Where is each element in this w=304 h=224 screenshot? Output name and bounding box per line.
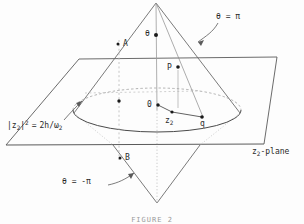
figure-container: θ = π θ = -π θ A B P 0 q z2 z2-plane |z2… xyxy=(0,0,304,224)
cone-axis xyxy=(156,3,157,203)
point-a-dot xyxy=(117,43,120,46)
label-theta-vertex: θ xyxy=(145,30,150,38)
guide-line-horizontal xyxy=(85,91,200,93)
plane-right-edge xyxy=(264,57,277,144)
label-point-z2-subscript: 2 xyxy=(170,119,174,126)
plane-bottom-edge xyxy=(6,144,264,145)
label-point-o: 0 xyxy=(147,101,152,109)
lower-cone-right-edge xyxy=(157,145,200,203)
plane-left-edge xyxy=(6,59,79,145)
label-theta-equals-minus-pi: θ = -π xyxy=(62,178,91,186)
plane-top-edge xyxy=(79,57,277,59)
point-z2-dot xyxy=(170,110,173,113)
radius-rhs-subscript: 2 xyxy=(59,124,63,131)
label-point-b: B xyxy=(125,154,130,162)
point-o-dot xyxy=(156,103,159,106)
arrow-theta-pi-shaft xyxy=(198,23,218,42)
point-p-dot xyxy=(176,65,180,69)
lower-cone-left-hidden-edge xyxy=(74,113,113,145)
label-point-q: q xyxy=(200,120,205,128)
label-point-a: A xyxy=(123,40,128,48)
label-point-z2: z2 xyxy=(165,117,173,126)
upper-cone-generator-to-q xyxy=(156,3,203,117)
point-axis-mid-dot xyxy=(117,99,120,102)
vector-o-to-z2 xyxy=(158,105,172,112)
lower-cone-left-edge xyxy=(113,145,157,203)
radius-rhs-numerator: 2h/ xyxy=(40,121,54,130)
vector-z2-to-q xyxy=(172,112,202,117)
label-z2-plane-tail: -plane xyxy=(260,147,289,156)
figure-caption: FIGURE 2 xyxy=(0,216,304,224)
lower-cone-right-hidden-edge xyxy=(200,113,240,145)
point-theta-dot xyxy=(154,33,158,37)
annotation-arrows xyxy=(64,23,218,185)
arrow-theta-minus-pi-head xyxy=(128,173,134,179)
marked-points xyxy=(117,33,204,160)
label-radius-equation: |z2|2=2h/ω2 xyxy=(7,120,62,131)
point-b-dot xyxy=(119,157,122,160)
radius-equals-sign: = xyxy=(29,121,40,130)
label-z2-plane: z2-plane xyxy=(252,148,289,157)
radius-lhs-base: |z xyxy=(7,121,17,130)
figure-drawing xyxy=(0,0,304,224)
label-theta-equals-pi: θ = π xyxy=(216,13,240,21)
label-point-p: P xyxy=(167,64,172,72)
axis-upper-solid xyxy=(156,3,157,110)
